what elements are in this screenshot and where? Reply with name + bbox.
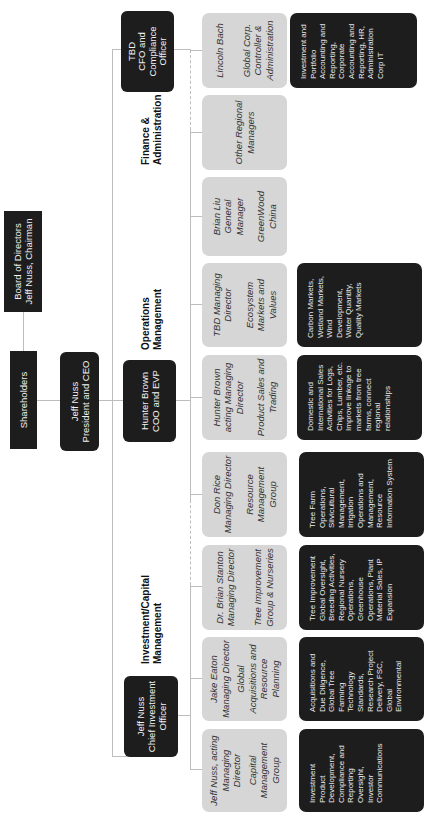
desc-tree-improvement: Tree Improvement Global Oversight, Breed… (299, 545, 424, 630)
bus-finance-dashed (190, 50, 191, 130)
unit-leader: Jake Eaton Managing Director (208, 640, 231, 718)
unit-name: Tree Improvement Group & Nurseries (252, 548, 275, 627)
cio-name: Jeff Nuss (135, 697, 146, 736)
unit-other-regional-managers: Other Regional Managers (202, 95, 287, 170)
coo-name: Hunter Brown (139, 372, 150, 430)
drop-unit-5 (190, 304, 202, 305)
unit-name: Global Acquisitions and Resource Plannin… (235, 640, 281, 718)
connector-ceo-trunk (99, 400, 112, 401)
unit-name: Ecosystem Markets and Values (244, 266, 279, 344)
cio-title-2: Officer (157, 703, 168, 731)
cfo-title-1: CFO and (137, 32, 148, 71)
unit-name: Resource Management Group (244, 455, 279, 534)
unit-leader: Dr. Brian Stanton Managing Director (214, 548, 237, 627)
unit-capital-management: Jeff Nuss, acting Managing Director Capi… (202, 729, 287, 812)
connector-trunk-cfo (112, 49, 121, 50)
ceo-name: Jeff Nuss (69, 382, 80, 421)
connector-shareholders-ceo (37, 400, 60, 401)
cio-node: Jeff Nuss Chief Investment Officer (124, 676, 178, 757)
unit-global-acquisitions: Jake Eaton Managing Director Global Acqu… (202, 637, 287, 721)
desc-text: Domestic and International Sales Activit… (306, 362, 392, 431)
drop-unit-7 (190, 132, 202, 133)
unit-leader: Lincoln Bach (214, 23, 226, 77)
unit-leader: Hunter Brown acting Managing Director (211, 358, 246, 437)
cfo-node: TBD CFO and Compliance Officer (121, 11, 174, 92)
section-label-investment-line1: Investment/Capital (140, 575, 152, 664)
board-title: Board of Directors (12, 223, 23, 300)
desc-global-controller: Investment and Portfolio Accounting and … (290, 13, 417, 88)
desc-resource-management: Tree Farm Operations, Silvicultural Mana… (299, 452, 424, 537)
drop-unit-6 (190, 216, 202, 217)
unit-name: Capital Management Group (247, 732, 282, 809)
drop-unit-2 (190, 586, 202, 587)
drop-unit-3 (190, 494, 202, 495)
section-label-operations: Operations Management (140, 289, 163, 350)
section-label-investment-line2: Management (152, 575, 164, 664)
drop-unit-4 (190, 397, 202, 398)
desc-text: Investment and Portfolio Accounting and … (299, 20, 385, 79)
desc-global-acquisitions: Acquisitions and Due Diligence, Global T… (299, 637, 424, 721)
unit-name: Other Regional Managers (233, 98, 256, 167)
unit-leader: TBD Managing Director (211, 266, 234, 344)
unit-global-controller: Lincoln Bach Global Corp. Controller & A… (202, 13, 287, 88)
bus-operations (190, 130, 191, 500)
unit-ecosystem-markets: TBD Managing Director Ecosystem Markets … (202, 263, 287, 347)
drop-unit-0 (190, 769, 202, 770)
desc-text: Investment Product Development, Complian… (308, 736, 385, 803)
drop-unit-8 (190, 50, 202, 51)
coo-node: Hunter Brown COO and EVP (123, 360, 176, 442)
section-label-finance-line1: Finance & (140, 94, 152, 165)
section-label-finance-line2: Administration (152, 94, 164, 165)
cio-title-1: Chief Investment (146, 681, 157, 752)
shareholders-label: Shareholders (18, 372, 29, 429)
desc-text: Tree Farm Operations, Silvicultural Mana… (308, 459, 394, 528)
desc-product-sales: Domestic and International Sales Activit… (297, 355, 422, 440)
connector-board-shareholders (23, 305, 24, 355)
connector-cio-sub (178, 715, 190, 716)
board-chairman: Jeff Nuss, Chairman (23, 219, 34, 305)
unit-leader: Brian Liu General Manager (211, 180, 246, 253)
org-chart: Board of Directors Jeff Nuss, Chairman S… (0, 0, 433, 835)
desc-text: Tree Improvement Global Oversight, Breed… (308, 552, 394, 621)
desc-capital-management: Investment Product Development, Complian… (299, 729, 424, 812)
ceo-node: Jeff Nuss President and CEO (60, 352, 99, 451)
section-label-operations-line1: Operations (140, 289, 152, 350)
section-label-operations-line2: Management (152, 289, 164, 350)
connector-trunk (112, 50, 113, 757)
desc-text: Carbon Markets, Wetland Markets, Wind De… (306, 270, 364, 338)
board-of-directors-node: Board of Directors Jeff Nuss, Chairman (4, 211, 42, 312)
unit-name: GreenWood China (255, 180, 278, 253)
unit-greenwood-china: Brian Liu General Manager GreenWood Chin… (202, 177, 287, 256)
drop-unit-1 (190, 678, 202, 679)
unit-leader: Don Rice Managing Director (211, 455, 234, 534)
ceo-title: President and CEO (80, 361, 91, 443)
connector-trunk-coo (112, 400, 123, 401)
section-label-finance: Finance & Administration (140, 94, 163, 165)
coo-title: COO and EVP (150, 370, 161, 432)
bus-investment-dashed (190, 500, 191, 585)
unit-product-sales: Hunter Brown acting Managing Director Pr… (202, 355, 287, 440)
desc-ecosystem-markets: Carbon Markets, Wetland Markets, Wind De… (297, 263, 422, 347)
unit-resource-management: Don Rice Managing Director Resource Mana… (202, 452, 287, 537)
unit-leader: Jeff Nuss, acting Managing Director (208, 732, 243, 809)
connector-cfo-sub (174, 49, 190, 50)
unit-name: Global Corp. Controller & Administration (241, 16, 276, 85)
unit-name: Product Sales and Trading (255, 358, 278, 437)
unit-tree-improvement: Dr. Brian Stanton Managing Director Tree… (202, 545, 287, 630)
cfo-title-3: Officer (158, 38, 169, 66)
desc-text: Acquisitions and Due Diligence, Global T… (308, 644, 404, 712)
section-label-investment: Investment/Capital Management (140, 575, 163, 664)
shareholders-node: Shareholders (10, 351, 37, 449)
connector-coo-sub (176, 400, 190, 401)
